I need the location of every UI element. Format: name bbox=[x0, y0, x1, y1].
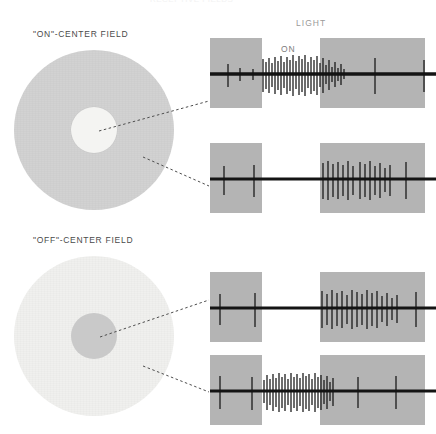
receptive-field-figure: RECEPTIVE FIELDS "ON"-CENTER FIELD "OFF"… bbox=[0, 0, 436, 434]
recording-trace-on-center-surround bbox=[210, 143, 436, 213]
on-center-field-label: "ON"-CENTER FIELD bbox=[33, 29, 128, 39]
figure-title-text: RECEPTIVE FIELDS bbox=[150, 0, 360, 4]
off-center-field-label: "OFF"-CENTER FIELD bbox=[33, 235, 133, 245]
recording-trace-off-center-center bbox=[210, 272, 436, 342]
on-center-field-diagram bbox=[14, 50, 174, 210]
on-center-center-region bbox=[71, 107, 117, 153]
figure-title-cutoff: RECEPTIVE FIELDS bbox=[150, 0, 360, 9]
light-header-label: LIGHT bbox=[296, 18, 326, 28]
off-center-field-diagram bbox=[14, 256, 174, 416]
off-center-center-region bbox=[71, 313, 117, 359]
recording-trace-on-center-center bbox=[210, 38, 436, 108]
recording-trace-off-center-surround bbox=[210, 355, 436, 425]
